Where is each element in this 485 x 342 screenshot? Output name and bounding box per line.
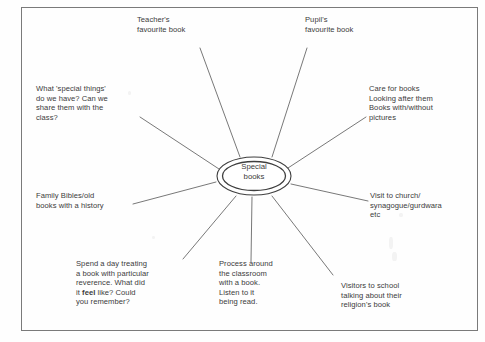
node-care-for-books: Care for books Looking after them Books … [369,84,479,122]
node-pupils-favourite-book: Pupil's favourite book [305,15,420,34]
spoke-teachers-favourite-book [200,48,240,157]
node-special-things: What 'special things' do we have? Can we… [36,84,161,122]
node-teachers-favourite-book: Teacher's favourite book [137,15,247,34]
node-bold-word: feel [82,288,95,297]
node-visit-to-church: Visit to church/ synagogue/gurdwara etc [370,191,480,220]
diagram-page: Special books Teacher's favourite book P… [0,0,485,342]
node-process-around-classroom: Process around the classroom with a book… [219,259,314,307]
spoke-pupils-favourite-book [272,48,307,157]
spoke-special-things [140,117,219,169]
spoke-care-for-books [288,117,366,168]
spoke-visit-to-church [291,184,368,201]
node-family-bibles: Family Bibles/old books with a history [36,191,151,210]
central-node-label: Special books [216,162,292,182]
node-visitors-to-school: Visitors to school talking about their r… [341,281,456,310]
node-spend-a-day-treating: Spend a day treating a book with particu… [76,259,201,307]
spoke-spend-a-day-treating [183,196,236,259]
spoke-process-around-classroom [251,197,252,262]
